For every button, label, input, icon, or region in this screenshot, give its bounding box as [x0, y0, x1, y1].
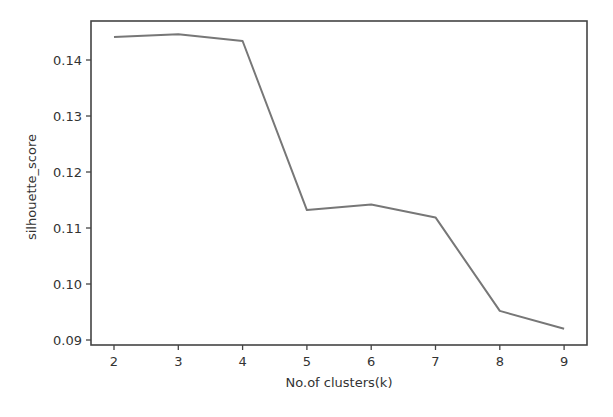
- x-tick-label: 7: [431, 354, 439, 369]
- y-tick-label: 0.12: [53, 165, 82, 180]
- y-tick-label: 0.11: [53, 221, 82, 236]
- x-tick-label: 4: [238, 354, 246, 369]
- y-tick-label: 0.10: [53, 277, 82, 292]
- x-tick-label: 6: [367, 354, 375, 369]
- y-tick-label: 0.13: [53, 109, 82, 124]
- line-chart: 0.090.100.110.120.130.14 23456789 No.of …: [0, 0, 613, 417]
- x-tick-label: 3: [174, 354, 182, 369]
- y-tick-label: 0.09: [53, 333, 82, 348]
- y-tick-label: 0.14: [53, 53, 82, 68]
- x-tick-label: 2: [110, 354, 118, 369]
- y-axis-ticks: 0.090.100.110.120.130.14: [53, 53, 91, 348]
- silhouette-score-line: [114, 34, 564, 329]
- x-tick-label: 9: [560, 354, 568, 369]
- x-tick-label: 8: [496, 354, 504, 369]
- x-axis-ticks: 23456789: [110, 345, 568, 369]
- x-tick-label: 5: [303, 354, 311, 369]
- x-axis-label: No.of clusters(k): [286, 375, 393, 390]
- plot-frame: [91, 21, 587, 345]
- y-axis-label: silhouette_score: [24, 134, 39, 240]
